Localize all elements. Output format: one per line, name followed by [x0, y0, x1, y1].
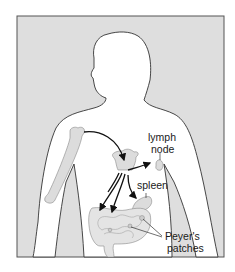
lymph-node-label-line2: node — [151, 143, 175, 155]
peyers-patches-label-line2: patches — [167, 242, 204, 254]
spleen-label: spleen — [137, 179, 168, 191]
lymph-node-icon — [156, 160, 163, 170]
peyers-patches-label-line1: Peyer's — [165, 230, 200, 242]
lymph-node-label-line1: lymph — [148, 131, 176, 143]
lymphoid-organs-diagram: lymph node spleen Peyer's patches — [0, 0, 235, 272]
